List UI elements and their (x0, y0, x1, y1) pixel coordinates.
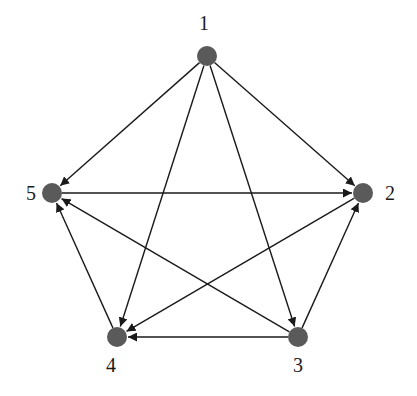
edge-1-to-3 (210, 66, 295, 327)
node-2 (353, 183, 373, 203)
edge-1-to-5 (60, 63, 199, 186)
edge-2-to-4 (126, 198, 354, 331)
node-1 (197, 46, 217, 66)
edge-3-to-2 (302, 203, 358, 328)
node-label-1: 1 (199, 12, 209, 34)
nodes-group (42, 46, 373, 347)
node-4 (107, 327, 127, 347)
node-5 (42, 183, 62, 203)
node-3 (288, 327, 308, 347)
directed-graph: 12345 (0, 0, 417, 396)
node-label-3: 3 (293, 354, 303, 376)
edges-group (57, 63, 359, 337)
edge-3-to-5 (61, 199, 289, 332)
edge-1-to-4 (120, 66, 204, 327)
edge-4-to-5 (57, 203, 113, 328)
edge-1-to-2 (215, 63, 355, 186)
node-label-5: 5 (26, 182, 36, 204)
node-label-2: 2 (385, 182, 395, 204)
node-label-4: 4 (106, 354, 116, 376)
